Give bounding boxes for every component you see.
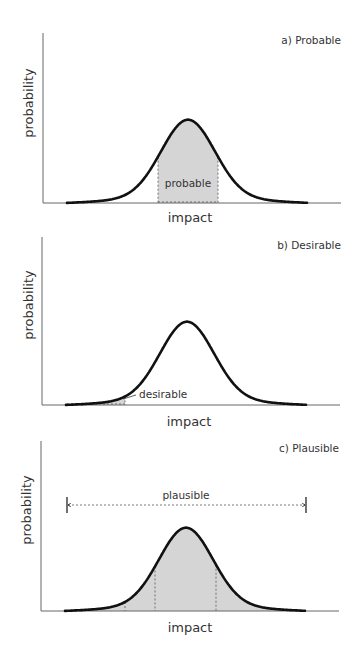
panel-a-title: a) Probable bbox=[281, 34, 341, 46]
panel-a: a) Probable probability impact probable bbox=[21, 33, 341, 225]
panel-c-x-label: impact bbox=[168, 620, 213, 635]
panel-c-shade bbox=[65, 528, 305, 611]
panel-a-shade bbox=[158, 120, 218, 203]
panel-c-title: c) Plausible bbox=[279, 442, 339, 454]
panel-b-title: b) Desirable bbox=[277, 239, 341, 251]
panel-b-region-label: desirable bbox=[139, 388, 187, 400]
panel-b: b) Desirable probability impact desirabl… bbox=[21, 237, 341, 429]
panel-c-y-label: probability bbox=[19, 475, 34, 545]
panel-a-x-label: impact bbox=[168, 210, 213, 225]
panel-a-region-label: probable bbox=[165, 177, 211, 189]
figure: a) Probable probability impact probable … bbox=[0, 0, 363, 661]
panel-b-x-label: impact bbox=[167, 414, 212, 429]
panel-c-region-label: plausible bbox=[162, 489, 209, 501]
panel-b-y-label: probability bbox=[21, 270, 36, 340]
panel-c: c) Plausible probability impact plausibl… bbox=[19, 441, 339, 635]
panel-a-y-label: probability bbox=[21, 68, 36, 138]
